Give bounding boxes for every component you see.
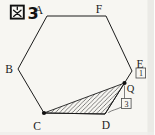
ratio-box-qd: 3 bbox=[122, 99, 132, 109]
geometry-figure: 3 A F B E C D Q 1 3 bbox=[0, 0, 154, 135]
vertex-label-a: A bbox=[35, 4, 44, 16]
scan-edge-right bbox=[148, 0, 155, 135]
hexagon-outline bbox=[18, 16, 132, 114]
ratio-value-eq: 1 bbox=[139, 69, 143, 78]
point-label-q: Q bbox=[127, 83, 135, 94]
scan-edge-bottom bbox=[0, 132, 154, 135]
vertex-label-d: D bbox=[102, 119, 110, 131]
figure-svg: 3 A F B E C D Q 1 3 bbox=[0, 0, 154, 135]
ratio-value-qd: 3 bbox=[124, 100, 128, 109]
zu-kanji-icon bbox=[11, 6, 24, 19]
vertex-label-f: F bbox=[96, 3, 102, 15]
leader-curve-box3-to-qd bbox=[108, 107, 121, 113]
vertex-label-c: C bbox=[33, 120, 41, 132]
ratio-box-eq: 1 bbox=[136, 68, 146, 78]
point-c-dot bbox=[42, 111, 46, 115]
shaded-triangle-cdq bbox=[44, 83, 125, 114]
vertex-label-b: B bbox=[5, 63, 13, 75]
